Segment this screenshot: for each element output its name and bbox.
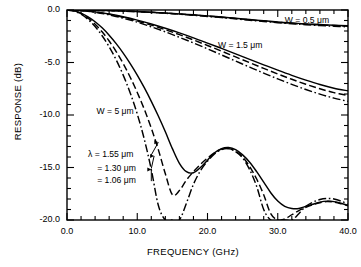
y-tick-label: -15.0 xyxy=(14,162,60,172)
x-tick-label: 30.0 xyxy=(255,226,301,236)
leader-arrowhead-2 xyxy=(147,168,151,172)
y-tick-label: -20.0 xyxy=(14,214,60,224)
annotation-1: W = 1.5 μm xyxy=(218,40,262,50)
figure: RESPONSE (dB) FREQUENCY (GHz) 0.0-5.0-10… xyxy=(0,0,361,267)
x-tick-label: 10.0 xyxy=(114,226,160,236)
x-tick-label: 40.0 xyxy=(325,226,361,236)
x-tick-label: 20.0 xyxy=(185,226,231,236)
annotation-3: λ = 1.55 μm xyxy=(88,149,133,159)
annotation-0: W = 0.5 μm xyxy=(285,15,329,25)
y-tick-label: -10.0 xyxy=(14,109,60,119)
annotation-2: W = 5 μm xyxy=(97,106,134,116)
x-tick-label: 0.0 xyxy=(44,226,90,236)
leader-line-0 xyxy=(151,142,158,155)
annotation-4: = 1.30 μm xyxy=(97,163,136,173)
y-tick-label: 0.0 xyxy=(14,4,60,14)
leader-line-1 xyxy=(151,156,154,169)
x-axis-title: FREQUENCY (GHz) xyxy=(108,246,278,257)
y-tick-label: -5.0 xyxy=(14,57,60,67)
annotation-5: = 1.06 μm xyxy=(97,175,136,185)
